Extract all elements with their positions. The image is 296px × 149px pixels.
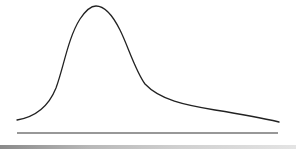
bottom-gray-band (0, 145, 296, 149)
skewed-distribution-diagram (0, 0, 296, 149)
distribution-curve (17, 6, 279, 122)
